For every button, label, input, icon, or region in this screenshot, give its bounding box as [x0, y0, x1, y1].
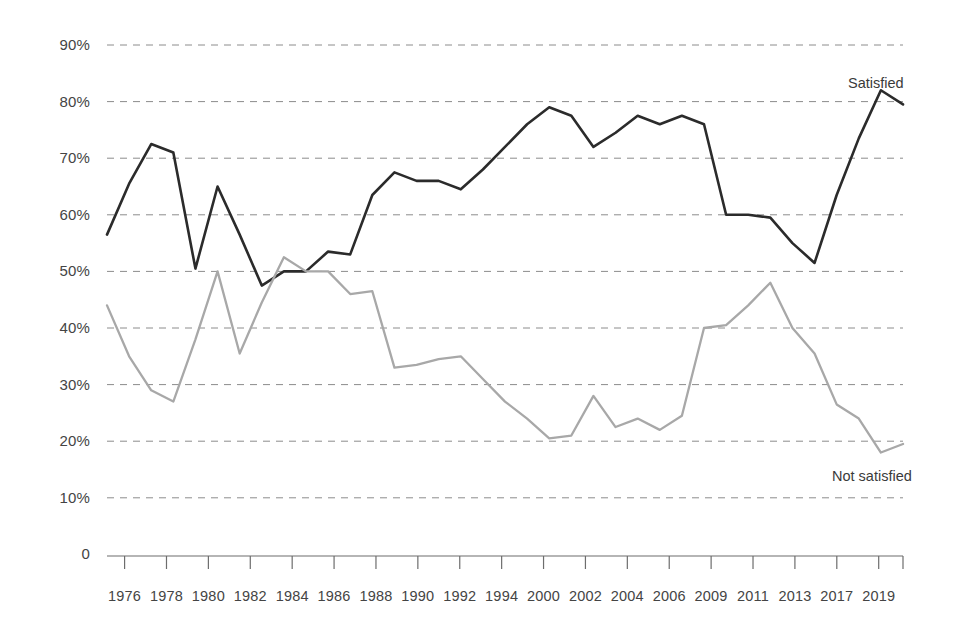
y-axis-tick-label: 50% — [0, 262, 90, 279]
x-axis-group — [107, 556, 903, 569]
line-chart: 90%80%70%60%50%40%30%20%10%0 19761978198… — [0, 0, 968, 644]
gridlines-group — [107, 45, 903, 498]
y-axis-tick-label: 70% — [0, 149, 90, 166]
series-line-not-satisfied — [107, 257, 903, 452]
y-axis-tick-label: 20% — [0, 432, 90, 449]
x-axis-tick-label: 2019 — [849, 588, 909, 604]
y-axis-tick-label: 30% — [0, 376, 90, 393]
y-axis-tick-label: 60% — [0, 206, 90, 223]
y-axis-tick-label: 40% — [0, 319, 90, 336]
y-axis-tick-label: 80% — [0, 93, 90, 110]
chart-canvas — [0, 0, 968, 644]
series-label-not-satisfied: Not satisfied — [832, 468, 912, 484]
y-axis-tick-label: 10% — [0, 489, 90, 506]
series-label-satisfied: Satisfied — [848, 75, 904, 91]
y-axis-tick-label: 90% — [0, 36, 90, 53]
series-line-satisfied — [107, 90, 903, 285]
y-axis-tick-label: 0 — [0, 545, 90, 562]
